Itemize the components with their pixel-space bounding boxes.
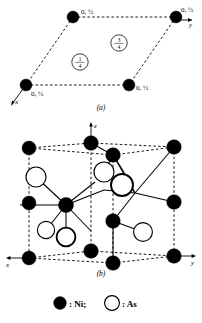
height-marker-numerator-one-quarter: 1 — [79, 56, 82, 62]
panel-a: 0, ½ 0, ½ 0, ½ 0, ½ 3 4 1 4 y — [11, 6, 193, 112]
nias-structure-figure: 0, ½ 0, ½ 0, ½ 0, ½ 3 4 1 4 y — [0, 0, 202, 323]
panel-b-ni-atoms — [22, 136, 181, 271]
height-marker-denominator-one-quarter: 4 — [79, 63, 82, 69]
cell-bottom-edge-front-right — [113, 256, 174, 263]
legend-label-as: : As — [122, 299, 137, 309]
cell-top-edge-back-right — [91, 143, 174, 147]
cell-bottom-edge-back-left — [29, 251, 91, 258]
figure-root: 0, ½ 0, ½ 0, ½ 0, ½ 3 4 1 4 y — [0, 0, 202, 323]
cell-edge-right — [129, 17, 176, 85]
panel-b-axis-y-label: y — [190, 259, 195, 267]
panel-b-axis-z-arrowhead — [89, 122, 93, 126]
legend-marker-as-icon — [105, 296, 120, 311]
panel-b-atom-as-upper-center — [94, 162, 114, 182]
panel-b-bonds — [20, 143, 174, 263]
panel-b-atom-ni-bottom-front — [106, 256, 121, 271]
legend: : Ni; : As — [54, 296, 138, 311]
panel-b-atom-as-center-right — [111, 174, 133, 196]
panel-b-atom-ni-top-front — [106, 148, 121, 163]
panel-b-atom-as-lower-right — [134, 223, 153, 242]
panel-b-atom-ni-top-back — [84, 136, 99, 151]
legend-marker-ni-icon — [54, 297, 67, 310]
panel-b-atom-as-upper-left — [26, 167, 46, 187]
panel-a-cell-outline — [26, 17, 176, 85]
panel-a-axis-x-label: x — [14, 98, 19, 106]
panel-b-axis-z-label: z — [93, 122, 97, 130]
panel-a-atom-ni-top-left — [67, 11, 79, 23]
panel-b-as-atoms — [26, 162, 152, 246]
bond-ni-right-corner-top — [135, 147, 174, 193]
panel-a-axis-y-label: y — [188, 21, 193, 29]
legend-label-ni: : Ni; — [69, 299, 86, 309]
cell-edge-left — [26, 17, 73, 85]
panel-a-axis-x: x — [11, 89, 23, 106]
panel-b-caption: (b) — [97, 269, 106, 278]
panel-a-height-marker-three-quarters: 3 4 — [111, 35, 127, 51]
panel-a-axis-y: y — [176, 18, 193, 29]
panel-b-atom-ni-top-right — [167, 140, 182, 155]
cell-bottom-edge-back-right — [91, 251, 174, 256]
panel-b-atom-ni-interior-front — [106, 214, 121, 229]
height-marker-numerator-three-quarters: 3 — [118, 37, 121, 43]
panel-b-atom-ni-mid-right — [167, 195, 182, 210]
panel-b-atom-ni-mid-left — [22, 196, 36, 210]
panel-b-atom-as-lower-mid — [57, 228, 76, 247]
panel-a-label-top-left: 0, ½ — [81, 8, 93, 16]
panel-a-label-bottom-left: 0, ½ — [31, 90, 43, 98]
panel-b-atom-as-lower-left — [37, 221, 54, 238]
panel-b-axis-y-arrowhead — [192, 254, 196, 258]
cell-top-edge-front-left — [29, 148, 113, 155]
height-marker-denominator-three-quarters: 4 — [118, 44, 121, 50]
panel-a-caption: (a) — [97, 103, 106, 112]
panel-b-axis-x-label: x — [5, 261, 10, 269]
cell-top-edge-back-left — [29, 143, 91, 148]
panel-b-cell-wireframe — [29, 143, 174, 263]
panel-b-axis-x: x — [5, 256, 26, 269]
cell-bottom-edge-front-left — [29, 258, 113, 263]
panel-b-atom-ni-interior-left — [58, 197, 73, 212]
panel-b: z — [5, 122, 196, 278]
panel-a-label-top-right: 0, ½ — [181, 6, 193, 14]
panel-b-atom-ni-top-left — [22, 141, 36, 155]
panel-a-height-marker-one-quarter: 1 4 — [72, 54, 88, 70]
cell-top-edge-front-right — [113, 147, 174, 155]
panel-b-atom-ni-bottom-back — [84, 244, 99, 259]
panel-b-axis-x-arrowhead — [6, 256, 10, 260]
panel-a-atom-ni-bottom-right — [123, 79, 135, 91]
panel-a-label-bottom-right: 0, ½ — [136, 84, 148, 92]
